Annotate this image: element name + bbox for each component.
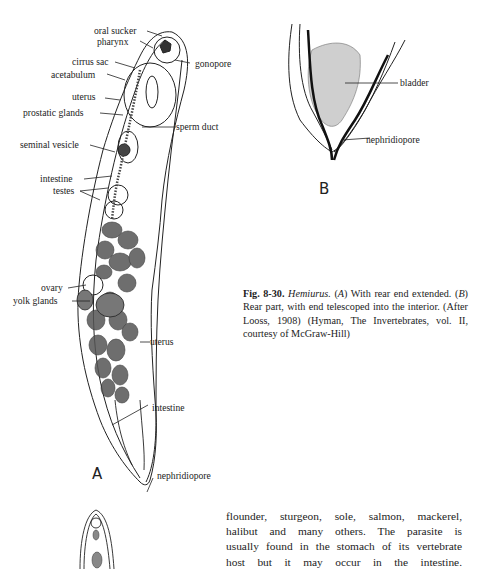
panel-letter-a: A [92, 465, 102, 483]
label-sperm-duct: sperm duct [176, 121, 218, 132]
label-bladder: bladder [400, 77, 429, 88]
panel-letter-b: B [319, 180, 329, 198]
genus-name: Hemiurus. [288, 288, 331, 299]
label-nephridiopore-b: nephridiopore [366, 134, 420, 145]
figure-number: Fig. 8-30. [243, 288, 285, 299]
label-pharynx: pharynx [97, 36, 128, 47]
label-uterus-upper: uterus [72, 91, 95, 102]
label-prostatic-glands: prostatic glands [23, 107, 83, 118]
label-yolk-glands: yolk glands [13, 295, 58, 306]
label-oral-sucker: oral sucker [94, 25, 136, 36]
label-nephridiopore-a: nephridiopore [157, 470, 211, 481]
body-line: halibut and many others. The parasite is [226, 524, 462, 539]
label-testes: testes [53, 185, 74, 196]
body-paragraph: flounder, sturgeon, sole, salmon, macker… [226, 509, 462, 569]
label-seminal-vesicle: seminal vesicle [20, 139, 79, 150]
label-uterus-lower: uterus [150, 336, 173, 347]
label-intestine-upper: intestine [40, 173, 73, 184]
body-line: flounder, sturgeon, sole, salmon, macker… [226, 509, 462, 524]
label-cirrus-sac: cirrus sac [72, 56, 109, 67]
label-ovary: ovary [41, 282, 63, 293]
label-gonopore: gonopore [195, 58, 231, 69]
body-line: host but it may occur in the intestine. [226, 555, 462, 569]
label-acetabulum: acetabulum [51, 69, 95, 80]
label-intestine-lower: intestine [152, 402, 185, 413]
figure-caption: Fig. 8-30. Hemiurus. (A) With rear end e… [243, 287, 468, 341]
body-line: usually found in the stomach of its vert… [226, 539, 462, 554]
